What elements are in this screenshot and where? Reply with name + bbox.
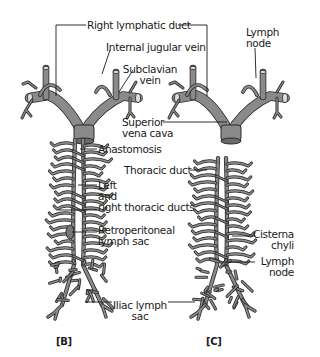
panel-b-network bbox=[92, 260, 93, 268]
label-subclavian-line2: vein bbox=[122, 75, 178, 86]
panel-b-end-r bbox=[136, 94, 141, 103]
label-cisterna-chyli: Cisterna chyli bbox=[244, 229, 294, 251]
panel-b-network bbox=[72, 280, 77, 281]
label-lnb-line2: node bbox=[244, 267, 294, 278]
lymph-node-top-leader bbox=[255, 48, 256, 78]
label-right-lymphatic-duct: Right lymphatic duct bbox=[87, 20, 190, 31]
panel-c-svc-opening bbox=[221, 138, 241, 144]
label-svc-line2: vena cava bbox=[122, 128, 173, 139]
label-cc-line2: chyli bbox=[244, 240, 294, 251]
panel-b-end-ijl bbox=[43, 66, 49, 69]
label-retroperitoneal-lymph-sac: Retroperitoneal lymph sac bbox=[98, 225, 175, 247]
panel-c-end-ijr bbox=[260, 70, 266, 73]
label-subclavian-vein: Subclavian vein bbox=[122, 64, 178, 86]
panel-b-network bbox=[58, 300, 68, 301]
label-iliac-lymph-sac: Iliac lymph sac bbox=[110, 300, 170, 322]
panel-c-twig-l bbox=[169, 100, 179, 118]
panel-c-end-r bbox=[283, 94, 288, 103]
label-anastomosis: Anastomosis bbox=[98, 144, 162, 155]
panel-c-end-ijl bbox=[190, 66, 196, 69]
panel-c-twig-r2 bbox=[277, 82, 283, 92]
panel-b-network bbox=[104, 264, 105, 273]
label-superior-vena-cava: Superior vena cava bbox=[122, 117, 173, 139]
label-lymph-node-top-line2: node bbox=[246, 38, 279, 49]
panel-label-c: [C] bbox=[206, 336, 222, 347]
label-ltd-line3: right thoracic ducts bbox=[98, 202, 194, 213]
label-rls-line2: lymph sac bbox=[98, 236, 175, 247]
internal-jugular-leader bbox=[102, 50, 110, 74]
label-internal-jugular-vein: Internal jugular vein bbox=[106, 42, 206, 53]
label-lymph-node-bottom: Lymph node bbox=[244, 256, 294, 278]
panel-b-twig-l bbox=[22, 100, 32, 118]
panel-c-network bbox=[215, 289, 218, 290]
label-left-right-thoracic-ducts: Left and right thoracic ducts bbox=[98, 180, 194, 213]
panel-b-end-ijr bbox=[113, 70, 119, 73]
label-ils-line2: sac bbox=[110, 311, 170, 322]
label-lymph-node-top: Lymph node bbox=[246, 27, 279, 49]
panel-b-network bbox=[70, 286, 78, 294]
label-thoracic-duct: Thoracic duct bbox=[124, 165, 191, 176]
panel-label-b: [B] bbox=[56, 336, 72, 347]
panel-b-network bbox=[70, 269, 76, 270]
